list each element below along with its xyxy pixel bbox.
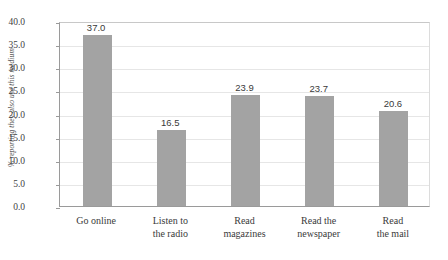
gridline [60,46,429,47]
bar-value-label: 23.7 [289,83,349,94]
category-label-line: magazines [202,227,288,240]
bar-value-label: 16.5 [140,117,200,128]
y-axis-tick-mark [56,208,60,209]
category-label-line: Read the [276,214,362,227]
y-axis-tick-mark [56,69,60,70]
category-label-line: Go online [53,214,139,227]
y-axis-tick-label: 15.0 [0,133,25,143]
y-axis-tick-label: 25.0 [0,86,25,96]
category-label-line: the radio [127,227,213,240]
y-axis-tick-label: 35.0 [0,40,25,50]
x-axis-category-label: Read thenewspaper [276,214,362,240]
plot-area [59,22,430,207]
y-axis-tick-mark [56,162,60,163]
y-axis-tick-label: 10.0 [0,156,25,166]
category-label-line: the mail [350,227,436,240]
x-axis-category-label: Readmagazines [202,214,288,240]
y-axis-tick-mark [56,46,60,47]
y-axis-tick-mark [56,139,60,140]
y-axis-tick-mark [56,185,60,186]
y-axis-tick-mark [56,23,60,24]
x-axis-category-label: Go online [53,214,139,227]
y-axis-tick-label: 0.0 [0,202,25,212]
bar[interactable] [379,111,408,206]
category-label-line: newspaper [276,227,362,240]
y-axis-tick-mark [56,116,60,117]
bar[interactable] [231,95,260,206]
y-axis-tick-label: 40.0 [0,17,25,27]
y-axis-tick-label: 5.0 [0,179,25,189]
bar-chart-figure: % reporting they also use this medium 40… [0,0,448,260]
bar[interactable] [83,35,112,206]
x-axis-category-label: Readthe mail [350,214,436,240]
x-axis-category-label: Listen tothe radio [127,214,213,240]
y-axis-tick-mark [56,92,60,93]
y-axis-tick-label: 20.0 [0,110,25,120]
bar[interactable] [305,96,334,206]
category-label-line: Read [350,214,436,227]
y-axis-tick-label: 30.0 [0,63,25,73]
category-label-line: Listen to [127,214,213,227]
gridline [60,69,429,70]
bar[interactable] [157,130,186,206]
bar-value-label: 37.0 [66,22,126,33]
bar-value-label: 23.9 [215,82,275,93]
bar-value-label: 20.6 [363,98,423,109]
category-label-line: Read [202,214,288,227]
